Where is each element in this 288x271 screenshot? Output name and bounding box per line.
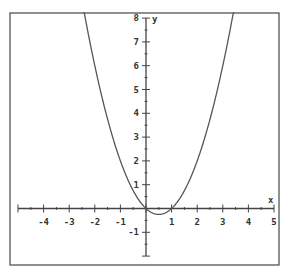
y-tick-label: 4 [134,108,140,118]
x-tick-label: 2 [194,217,199,227]
x-axis-label: x [268,195,274,205]
y-tick-label: 2 [134,156,139,166]
x-tick-label: -2 [89,217,100,227]
x-tick-label: 1 [169,217,174,227]
tick-labels: -4-3-2-112345-112345678 [38,13,277,237]
y-tick-label: -1 [128,227,139,237]
x-tick-label: 3 [220,217,225,227]
y-tick-label: 8 [134,13,139,23]
y-tick-label: 1 [134,180,139,190]
x-tick-label: -4 [38,217,49,227]
parabola-curve [83,13,234,214]
ticks [18,18,274,256]
plot-frame [10,13,279,265]
x-tick-label: -3 [64,217,75,227]
y-tick-label: 6 [134,61,139,71]
y-tick-label: 5 [134,85,139,95]
parabola-chart: -4-3-2-112345-112345678 x y [0,0,288,271]
x-tick-label: -1 [115,217,126,227]
y-tick-label: 3 [134,132,139,142]
y-axis-label: y [152,14,158,24]
x-tick-label: 4 [246,217,252,227]
y-tick-label: 7 [134,37,139,47]
x-tick-label: 5 [271,217,276,227]
